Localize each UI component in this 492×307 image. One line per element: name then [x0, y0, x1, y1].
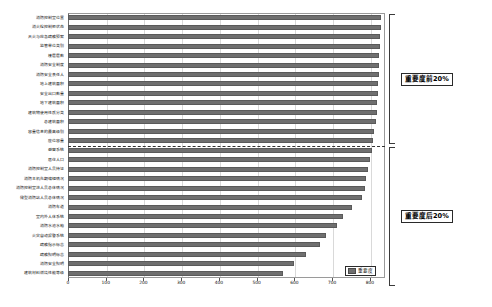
y-axis-tick-label: 居住人口 — [48, 157, 64, 162]
y-axis-tick-label: 消防主机先期编辑情况 — [24, 176, 64, 181]
y-axis-tick-label: 座位容量 — [48, 138, 64, 143]
y-axis-tick-label: 消防控制室位置 — [36, 15, 64, 20]
x-axis-tick-label: 0 — [67, 280, 70, 285]
y-axis-tick-label: 容量信息的最高级别 — [28, 129, 64, 134]
bar-row — [68, 242, 385, 247]
bar — [68, 72, 379, 77]
bar — [68, 138, 373, 143]
x-axis-tick-label: 500 — [252, 280, 260, 285]
bar-row — [68, 53, 385, 58]
bar — [68, 176, 366, 181]
bar-row — [68, 271, 385, 276]
bar — [68, 34, 380, 39]
y-axis-tick-label: 安全出口数量 — [40, 91, 64, 96]
bar-row — [68, 119, 385, 124]
bar — [68, 157, 370, 162]
bar — [68, 214, 343, 219]
legend-swatch-icon — [348, 268, 356, 274]
bar-row — [68, 167, 385, 172]
bar-row — [68, 110, 385, 115]
bar-row — [68, 205, 385, 210]
bar — [68, 91, 378, 96]
bar — [68, 100, 377, 105]
bar-row — [68, 214, 385, 219]
y-axis-tick-label: 天火与应急疏散预案 — [28, 34, 64, 39]
x-axis-tick-label: 200 — [139, 280, 147, 285]
legend-label: 重要度 — [358, 269, 373, 274]
bar-row — [68, 138, 385, 143]
bar — [68, 119, 376, 124]
bar — [68, 205, 352, 210]
section-divider — [68, 146, 385, 147]
annotation-bottom-20: 重要度后20% — [401, 210, 453, 223]
bar-row — [68, 15, 385, 20]
y-axis-tick-label: 消防安全照明 — [40, 261, 64, 266]
chart-legend: 重要度 — [345, 266, 376, 276]
y-axis-tick-label: 建筑材料燃烧性能等级 — [24, 270, 64, 275]
bar-row — [68, 223, 385, 228]
annotation-top-20: 重要度前20% — [401, 73, 453, 86]
x-axis-tick-label: 700 — [328, 280, 336, 285]
y-axis-tick-label: 消火栓控制柜状态 — [32, 24, 64, 29]
bar — [68, 233, 326, 238]
bar — [68, 261, 294, 266]
bar-row — [68, 34, 385, 39]
bracket-top-20 — [389, 14, 395, 144]
y-axis-tick-label: 消防车道 — [48, 204, 64, 209]
y-axis-tick-label: 微型消防站人员总体情况 — [20, 195, 64, 200]
bar — [68, 15, 381, 20]
bar-row — [68, 186, 385, 191]
bar — [68, 129, 374, 134]
bar — [68, 186, 365, 191]
bar — [68, 242, 320, 247]
y-axis-tick-label: 总建筑面积 — [44, 119, 64, 124]
bar-row — [68, 91, 385, 96]
bar — [68, 25, 381, 30]
bar-row — [68, 72, 385, 77]
x-axis-tick-label: 100 — [102, 280, 110, 285]
y-axis-tick-label: 消防安全责任人 — [36, 72, 64, 77]
bar-row — [68, 195, 385, 200]
y-axis-tick-label: 建筑物使用性质分类 — [28, 110, 64, 115]
bar — [68, 167, 368, 172]
bar-row — [68, 129, 385, 134]
bar-row — [68, 100, 385, 105]
y-axis-tick-label: 室内外人体系统 — [36, 214, 64, 219]
bar — [68, 195, 362, 200]
bar — [68, 110, 377, 115]
bar-row — [68, 63, 385, 68]
y-axis-tick-label: 消防控制室进人员总体情况 — [16, 185, 64, 190]
x-axis-tick-label: 400 — [215, 280, 223, 285]
bracket-bottom-20 — [389, 147, 395, 287]
bar — [68, 81, 378, 86]
bar — [68, 271, 283, 276]
bar — [68, 44, 380, 49]
bar — [68, 53, 379, 58]
bar — [68, 148, 372, 153]
y-axis-tick-label: 消防水池水箱 — [40, 223, 64, 228]
bar-row — [68, 176, 385, 181]
bar-row — [68, 44, 385, 49]
bar — [68, 252, 306, 257]
y-axis-labels: 消防控制室位置消火栓控制柜状态天火与应急疏散预案监管单位类别楼层层数消防安全制度… — [0, 13, 66, 278]
x-axis-tick-label: 600 — [290, 280, 298, 285]
y-axis-tick-label: 避雷系统 — [48, 147, 64, 152]
bar-row — [68, 81, 385, 86]
bar-row — [68, 157, 385, 162]
y-axis-tick-label: 地上建筑面积 — [40, 81, 64, 86]
bar-chart: 消防控制室位置消火栓控制柜状态天火与应急疏散预案监管单位类别楼层层数消防安全制度… — [0, 0, 492, 307]
x-axis-tick-label: 300 — [177, 280, 185, 285]
bar-row — [68, 25, 385, 30]
bar — [68, 223, 337, 228]
y-axis-tick-label: 监管单位类别 — [40, 43, 64, 48]
bar-row — [68, 148, 385, 153]
y-axis-tick-label: 火灾自动报警系统 — [32, 233, 64, 238]
y-axis-tick-label: 疏散指示标志 — [40, 242, 64, 247]
bar-row — [68, 233, 385, 238]
y-axis-tick-label: 楼层层数 — [48, 53, 64, 58]
x-axis-tick-label: 800 — [366, 280, 374, 285]
y-axis-tick-label: 疏散照明标志 — [40, 252, 64, 257]
y-axis-tick-label: 消防安全制度 — [40, 62, 64, 67]
y-axis-tick-label: 消防控制室人员持证 — [28, 166, 64, 171]
y-axis-tick-label: 地下建筑面积 — [40, 100, 64, 105]
